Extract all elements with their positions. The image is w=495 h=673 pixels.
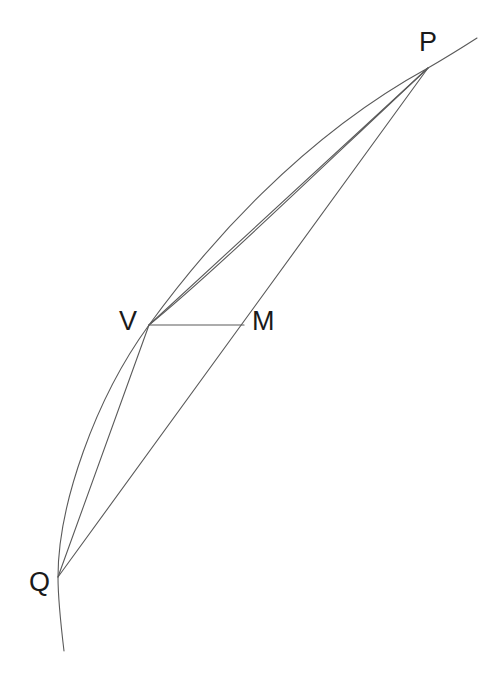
chord-q-to-v [58, 325, 149, 577]
point-label-p: P [419, 29, 437, 56]
parabolic-arc-curve [58, 38, 477, 651]
point-label-m: M [252, 308, 275, 335]
chord-q-to-p [58, 68, 428, 577]
point-label-q: Q [29, 569, 50, 596]
geometry-figure: P V M Q [0, 0, 495, 673]
point-label-v: V [119, 308, 137, 335]
geometry-canvas [0, 0, 495, 673]
chord-v-to-p [149, 68, 428, 325]
